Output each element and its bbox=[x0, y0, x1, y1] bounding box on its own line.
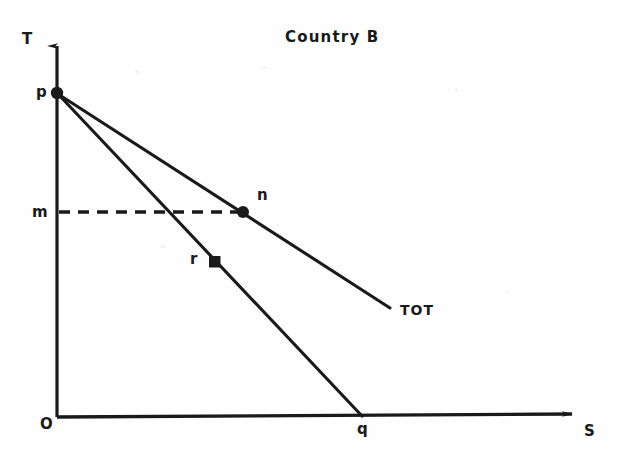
point-label-n: n bbox=[257, 188, 268, 203]
y-axis-label: T bbox=[22, 32, 33, 47]
chart-title: Country B bbox=[285, 30, 379, 45]
point-label-r: r bbox=[190, 252, 198, 267]
point-label-m: m bbox=[32, 205, 48, 220]
point-marker-p bbox=[51, 87, 63, 99]
point-label-q: q bbox=[357, 422, 368, 437]
origin-label: O bbox=[40, 417, 53, 432]
point-marker-r bbox=[209, 256, 221, 268]
x-axis-label: S bbox=[584, 424, 595, 439]
x-axis bbox=[57, 414, 572, 417]
production-possibility-line bbox=[58, 94, 362, 416]
economics-diagram: Country B T S O p n r q m TOT bbox=[0, 0, 618, 472]
point-label-p: p bbox=[36, 85, 47, 100]
terms-of-trade-line bbox=[58, 94, 390, 308]
tot-line-label: TOT bbox=[400, 303, 434, 317]
diagram-canvas bbox=[0, 0, 618, 472]
point-marker-n bbox=[237, 206, 249, 218]
